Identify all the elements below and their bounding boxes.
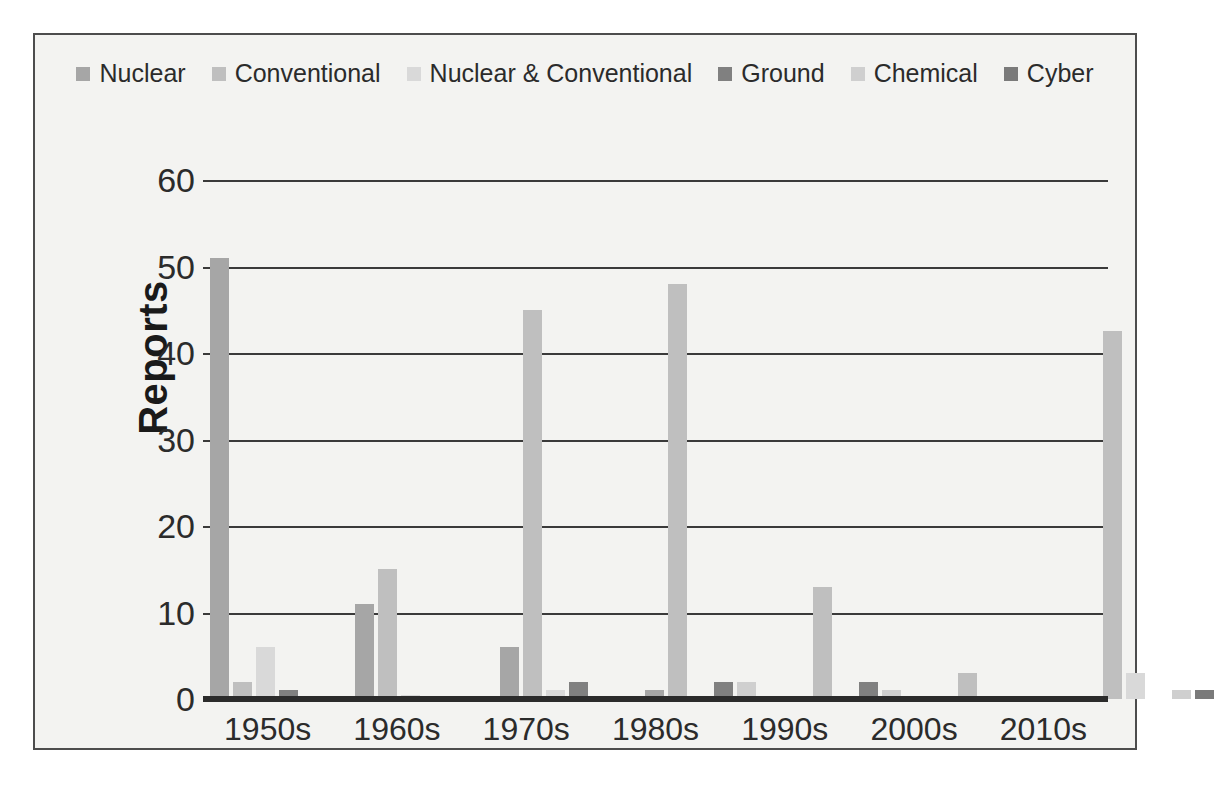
chart-legend: NuclearConventionalNuclear & Conventiona… bbox=[35, 59, 1135, 88]
legend-item: Cyber bbox=[1004, 59, 1094, 88]
bar bbox=[256, 647, 275, 699]
legend-swatch-icon bbox=[407, 67, 421, 81]
legend-swatch-icon bbox=[851, 67, 865, 81]
x-axis-tick-label: 1970s bbox=[462, 711, 591, 748]
bar bbox=[1126, 673, 1145, 699]
bar-groups bbox=[203, 180, 1108, 699]
bar bbox=[1172, 690, 1191, 699]
y-axis-tick-label: 60 bbox=[157, 163, 195, 197]
y-axis-tick-labels: 0102030405060 bbox=[123, 180, 195, 699]
legend-label: Ground bbox=[741, 59, 824, 88]
bar-group bbox=[203, 180, 348, 699]
legend-swatch-icon bbox=[718, 67, 732, 81]
x-axis-tick-label: 1960s bbox=[332, 711, 461, 748]
y-axis-tick-label: 30 bbox=[157, 423, 195, 457]
x-axis-tick-label: 1950s bbox=[203, 711, 332, 748]
bar bbox=[1195, 690, 1214, 699]
legend-label: Cyber bbox=[1027, 59, 1094, 88]
legend-item: Ground bbox=[718, 59, 824, 88]
x-axis-tick-labels: 1950s1960s1970s1980s1990s2000s2010s bbox=[203, 711, 1108, 748]
legend-label: Nuclear & Conventional bbox=[430, 59, 693, 88]
legend-label: Chemical bbox=[874, 59, 978, 88]
y-axis-tick-label: 50 bbox=[157, 250, 195, 284]
legend-swatch-icon bbox=[1004, 67, 1018, 81]
x-axis-tick-label: 2010s bbox=[979, 711, 1108, 748]
bar-group bbox=[783, 180, 928, 699]
legend-item: Chemical bbox=[851, 59, 978, 88]
x-axis-tick-label: 2000s bbox=[849, 711, 978, 748]
legend-swatch-icon bbox=[212, 67, 226, 81]
x-axis-tick-label: 1990s bbox=[720, 711, 849, 748]
bar bbox=[500, 647, 519, 699]
bar bbox=[813, 587, 832, 699]
legend-label: Conventional bbox=[235, 59, 381, 88]
bar bbox=[210, 258, 229, 699]
bar-group bbox=[1073, 180, 1218, 699]
bar-group bbox=[493, 180, 638, 699]
chart-frame: NuclearConventionalNuclear & Conventiona… bbox=[33, 33, 1137, 750]
legend-swatch-icon bbox=[76, 67, 90, 81]
y-axis-tick-label: 10 bbox=[157, 596, 195, 630]
x-axis-tick-label: 1980s bbox=[591, 711, 720, 748]
bar-group bbox=[348, 180, 493, 699]
plot-area bbox=[203, 180, 1108, 699]
legend-item: Nuclear bbox=[76, 59, 185, 88]
legend-label: Nuclear bbox=[99, 59, 185, 88]
legend-item: Conventional bbox=[212, 59, 381, 88]
x-axis-line bbox=[203, 696, 1108, 702]
y-axis-tick-label: 40 bbox=[157, 336, 195, 370]
bar bbox=[355, 604, 374, 699]
bar bbox=[1103, 331, 1122, 699]
bar bbox=[523, 310, 542, 699]
bar bbox=[378, 569, 397, 699]
bar bbox=[668, 284, 687, 699]
bar-group bbox=[928, 180, 1073, 699]
y-axis-tick-label: 0 bbox=[176, 682, 195, 716]
legend-item: Nuclear & Conventional bbox=[407, 59, 693, 88]
bar-group bbox=[638, 180, 783, 699]
y-axis-tick-label: 20 bbox=[157, 509, 195, 543]
